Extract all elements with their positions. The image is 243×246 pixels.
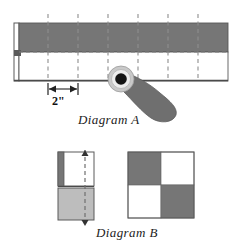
quad-square (128, 152, 194, 218)
diagram-a-label: Diagram A (78, 112, 140, 128)
folded-arrow-down (82, 220, 89, 226)
dimension-arrow-right (70, 86, 77, 93)
folded-spine-strip (58, 152, 64, 186)
quad-cell-bottom-left (128, 185, 161, 218)
folded-bottom-panel (58, 188, 94, 220)
dimension-label: 2" (52, 94, 65, 109)
dimension-arrow-left (49, 86, 56, 93)
diagram-b-group (58, 150, 194, 226)
fold-tab-marker (14, 50, 21, 56)
quad-cell-bottom-right (161, 185, 194, 218)
knob-hub (115, 73, 127, 85)
board-top-half (19, 23, 228, 52)
quad-cell-top-left (128, 152, 161, 185)
diagram-b-label: Diagram B (96, 225, 158, 241)
quad-cell-top-right (161, 152, 194, 185)
diagram-a-group (14, 14, 228, 122)
